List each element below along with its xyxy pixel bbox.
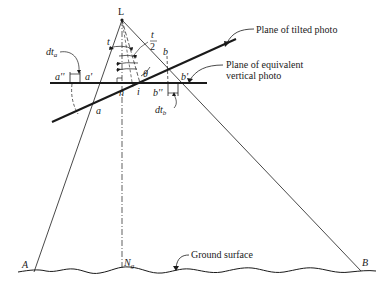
label-t-half-num: t <box>151 29 154 40</box>
equivalent-plane-leader <box>190 65 223 80</box>
t-half-leader <box>134 42 148 55</box>
dtb-leader <box>174 95 176 108</box>
tilt-displacement-diagram: L t t 2 θ dta dtb a'' a' a n i b b' b'' … <box>0 0 392 288</box>
label-b: b <box>163 46 168 57</box>
dta-leader <box>60 52 79 72</box>
callout-equivalent-plane-line1: Plane of equivalent <box>226 59 303 70</box>
label-a-dprime: a'' <box>55 71 65 82</box>
label-B: B <box>362 257 368 268</box>
label-dta: dta <box>46 46 58 59</box>
label-n: n <box>119 87 124 98</box>
ground-surface-line <box>18 267 376 274</box>
label-b-prime: b' <box>181 71 189 82</box>
ray-L-to-B <box>122 20 361 271</box>
exposure-station-L <box>120 18 123 21</box>
callout-ground-surface: Ground surface <box>191 249 253 260</box>
label-dtb: dtb <box>155 104 167 117</box>
tilted-plane-arrowhead <box>224 41 230 47</box>
label-theta: θ <box>143 68 148 79</box>
angle-arrow-5 <box>117 68 121 72</box>
callout-tilted-plane: Plane of tilted photo <box>256 24 337 35</box>
angle-arrow-4 <box>117 62 121 66</box>
dtb-arrowhead <box>172 92 176 96</box>
label-a-prime: a' <box>85 71 93 82</box>
rotation-arc-a <box>72 84 78 114</box>
label-a: a <box>96 105 101 116</box>
label-A: A <box>21 259 29 270</box>
label-Ng: Ng <box>123 257 135 270</box>
ray-L-to-A <box>34 20 122 272</box>
diagram-canvas: L t t 2 θ dta dtb a'' a' a n i b b' b'' … <box>0 0 392 288</box>
label-L: L <box>118 6 124 17</box>
label-t-half-den: 2 <box>150 41 155 52</box>
label-i: i <box>137 86 140 97</box>
label-t: t <box>107 36 110 47</box>
callout-equivalent-plane-line2: vertical photo <box>226 70 281 81</box>
label-b-dprime: b'' <box>153 87 163 98</box>
